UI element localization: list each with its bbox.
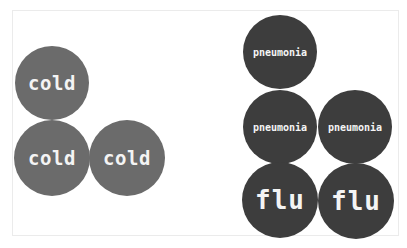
pneumonia-circle-2: pneumonia: [243, 90, 317, 164]
circle-label: cold: [28, 72, 76, 94]
circle-label: flu: [331, 186, 381, 216]
pneumonia-circle-3: pneumonia: [318, 90, 392, 164]
flu-circle-2: flu: [318, 163, 394, 239]
circle-label: pneumonia: [328, 122, 382, 133]
cold-circle-3: cold: [89, 120, 165, 196]
cold-circle-1: cold: [15, 46, 89, 120]
circle-label: flu: [255, 185, 305, 215]
circle-label: cold: [103, 147, 151, 169]
flu-circle-1: flu: [242, 162, 318, 238]
circle-label: pneumonia: [253, 122, 307, 133]
cold-circle-2: cold: [14, 120, 90, 196]
pneumonia-circle-1: pneumonia: [243, 15, 317, 89]
circle-label: pneumonia: [253, 47, 307, 58]
circle-label: cold: [28, 147, 76, 169]
